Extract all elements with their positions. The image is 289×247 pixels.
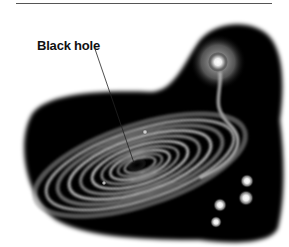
black-hole-label: Black hole	[37, 38, 100, 53]
companion-star	[190, 34, 246, 90]
